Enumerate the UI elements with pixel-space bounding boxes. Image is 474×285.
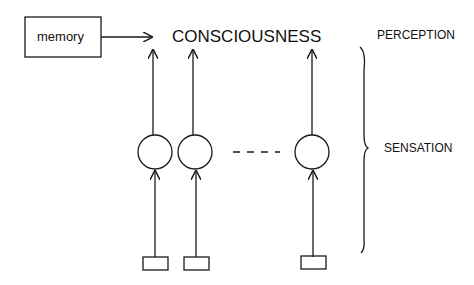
receptor-box-2 bbox=[184, 257, 209, 270]
sensor-node-2 bbox=[178, 135, 212, 169]
sensation-brace bbox=[360, 47, 368, 253]
receptor-box-3 bbox=[301, 256, 326, 269]
sensor-node-3 bbox=[295, 135, 329, 169]
receptor-box-1 bbox=[143, 257, 168, 270]
consciousness-label: CONSCIOUSNESS bbox=[172, 27, 321, 47]
sensor-node-1 bbox=[138, 135, 172, 169]
sensation-label: SENSATION bbox=[384, 141, 452, 155]
perception-label: PERCEPTION bbox=[377, 28, 455, 42]
memory-label: memory bbox=[37, 29, 84, 44]
